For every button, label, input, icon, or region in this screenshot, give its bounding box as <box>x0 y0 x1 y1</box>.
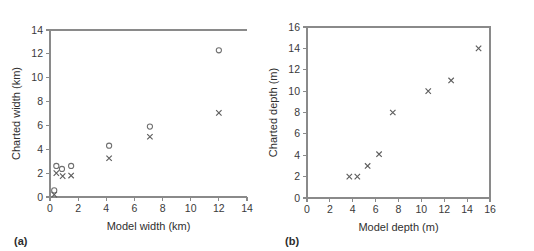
y-tick-label: 14 <box>288 42 300 54</box>
x-tick-label: 2 <box>75 202 81 214</box>
data-point-circle <box>147 124 152 129</box>
y-tick-label: 8 <box>37 95 43 107</box>
x-tick-label: 12 <box>213 202 225 214</box>
data-point-circle <box>69 163 74 168</box>
x-tick-label: 8 <box>396 203 402 215</box>
scatter-plot-a: 0246810121402468101214Model width (km)Ch… <box>0 0 267 251</box>
x-tick-label: 12 <box>438 203 450 215</box>
data-point-cross <box>355 174 360 179</box>
x-tick-label: 0 <box>47 202 53 214</box>
y-axis-title: Charted width (km) <box>10 67 22 160</box>
scatter-plot-b: 02468101214160246810121416Model depth (m… <box>267 0 534 251</box>
data-point-cross <box>476 46 481 51</box>
y-tick-label: 4 <box>294 149 300 161</box>
y-tick-label: 14 <box>31 24 43 36</box>
data-point-cross <box>376 151 381 156</box>
series-cross <box>52 110 222 197</box>
y-tick-label: 12 <box>288 63 300 75</box>
y-tick-label: 8 <box>294 106 300 118</box>
data-point-cross <box>106 156 111 161</box>
y-tick-label: 10 <box>288 85 300 97</box>
x-axis-title: Model depth (m) <box>358 221 438 233</box>
data-point-circle <box>107 143 112 148</box>
x-tick-label: 14 <box>241 202 253 214</box>
y-tick-label: 0 <box>37 191 43 203</box>
x-axis-title: Model width (km) <box>107 220 191 232</box>
x-tick-label: 4 <box>103 202 109 214</box>
x-tick-label: 10 <box>416 203 428 215</box>
y-axis-title: Charted depth (m) <box>267 68 279 157</box>
x-tick-label: 2 <box>327 203 333 215</box>
x-tick-label: 0 <box>304 203 310 215</box>
y-tick-label: 2 <box>37 167 43 179</box>
data-point-cross <box>365 163 370 168</box>
x-tick-label: 6 <box>373 203 379 215</box>
y-tick-label: 10 <box>31 71 43 83</box>
series-open-circle <box>52 48 222 193</box>
data-point-cross <box>147 134 152 139</box>
data-point-cross <box>216 110 221 115</box>
y-tick-label: 12 <box>31 47 43 59</box>
y-tick-label: 0 <box>294 192 300 204</box>
x-tick-label: 6 <box>132 202 138 214</box>
data-point-circle <box>54 163 59 168</box>
y-tick-label: 6 <box>37 119 43 131</box>
data-point-circle <box>59 166 64 171</box>
panel-a: 0246810121402468101214Model width (km)Ch… <box>0 0 267 251</box>
figure-container: 0246810121402468101214Model width (km)Ch… <box>0 0 534 251</box>
panel-b-label: (b) <box>285 235 299 247</box>
y-tick-label: 4 <box>37 143 43 155</box>
data-point-cross <box>347 174 352 179</box>
y-tick-label: 2 <box>294 170 300 182</box>
data-point-cross <box>448 78 453 83</box>
data-point-cross <box>54 170 59 175</box>
y-tick-label: 6 <box>294 127 300 139</box>
x-tick-label: 10 <box>185 202 197 214</box>
data-point-cross <box>426 88 431 93</box>
x-tick-label: 14 <box>461 203 473 215</box>
data-point-cross <box>60 173 65 178</box>
x-tick-label: 16 <box>484 203 496 215</box>
panel-b: 02468101214160246810121416Model depth (m… <box>267 0 534 251</box>
data-point-cross <box>390 110 395 115</box>
plot-frame <box>307 27 490 198</box>
data-point-cross <box>68 173 73 178</box>
panel-a-label: (a) <box>14 235 27 247</box>
series-cross <box>347 46 482 180</box>
x-tick-label: 4 <box>350 203 356 215</box>
y-tick-label: 16 <box>288 21 300 33</box>
x-tick-label: 8 <box>160 202 166 214</box>
data-point-circle <box>216 48 221 53</box>
